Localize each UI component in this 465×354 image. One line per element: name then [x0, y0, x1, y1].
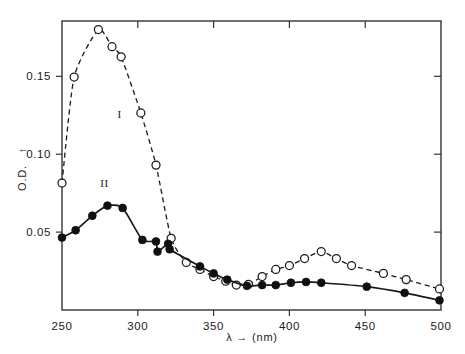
y-axis-tick-labels: 0.050.100.15: [26, 70, 51, 238]
series-I: [58, 26, 443, 293]
curve-annotations: III: [100, 108, 121, 189]
data-point-II: [302, 278, 310, 286]
data-point-II: [210, 269, 218, 277]
svg-text:λ → (nm): λ → (nm): [226, 331, 278, 343]
data-point-II: [243, 282, 251, 290]
data-point-II: [104, 202, 112, 210]
x-tick-label: 250: [52, 320, 73, 332]
data-point-II: [401, 289, 409, 297]
data-point-II: [154, 248, 162, 256]
y-axis-title: ↑ O.D.: [16, 147, 28, 191]
data-point-I: [152, 161, 160, 169]
x-tick-label: 300: [127, 320, 148, 332]
data-point-I: [285, 262, 293, 270]
data-point-II: [138, 236, 146, 244]
data-point-II: [363, 283, 371, 291]
data-point-II: [166, 245, 174, 253]
data-point-I: [379, 269, 387, 277]
y-tick-label: 0.10: [26, 148, 51, 160]
data-point-I: [117, 53, 125, 61]
data-point-I: [258, 273, 266, 281]
data-point-II: [436, 296, 444, 304]
data-point-I: [317, 248, 325, 256]
axes-border: [62, 21, 441, 310]
data-point-II: [317, 279, 325, 287]
curve-I: [62, 29, 439, 289]
data-point-I: [301, 255, 309, 263]
data-point-II: [119, 204, 127, 212]
data-point-II: [196, 262, 204, 270]
x-axis-title: λ → (nm): [226, 331, 278, 343]
y-tick-label: 0.05: [26, 226, 51, 238]
curve-label-I: I: [118, 108, 122, 120]
x-tick-label: 400: [279, 320, 300, 332]
y-tick-label: 0.15: [26, 70, 51, 82]
x-tick-label: 450: [355, 320, 376, 332]
data-point-I: [402, 276, 410, 284]
data-point-I: [108, 43, 116, 51]
data-point-I: [137, 109, 145, 117]
data-point-I: [272, 265, 280, 273]
x-tick-label: 350: [203, 320, 224, 332]
svg-text:O.D.: O.D.: [16, 165, 28, 191]
plot-frame: [62, 21, 441, 310]
data-point-II: [287, 279, 295, 287]
data-point-I: [94, 26, 102, 34]
data-point-I: [58, 179, 66, 187]
data-point-II: [58, 234, 66, 242]
data-point-II: [152, 238, 160, 246]
svg-text:↑: ↑: [16, 147, 28, 153]
y-axis-ticks: [56, 76, 441, 232]
data-point-II: [72, 226, 80, 234]
data-point-II: [258, 281, 266, 289]
data-point-II: [272, 281, 280, 289]
curve-label-II: II: [100, 177, 108, 189]
data-series-group: [58, 26, 443, 305]
data-point-II: [223, 276, 231, 284]
data-point-I: [70, 73, 78, 81]
top-axis-ticks: [138, 21, 365, 28]
absorption-spectrum-chart: 250300350400450500 0.050.100.15 III λ → …: [0, 0, 465, 354]
spectrum-figure: 250300350400450500 0.050.100.15 III λ → …: [0, 0, 465, 354]
data-point-II: [88, 212, 96, 220]
data-point-I: [332, 255, 340, 263]
data-point-I: [435, 285, 443, 293]
x-tick-label: 500: [431, 320, 452, 332]
x-axis-ticks: [138, 310, 365, 316]
series-II: [58, 202, 443, 305]
data-point-I: [348, 262, 356, 270]
